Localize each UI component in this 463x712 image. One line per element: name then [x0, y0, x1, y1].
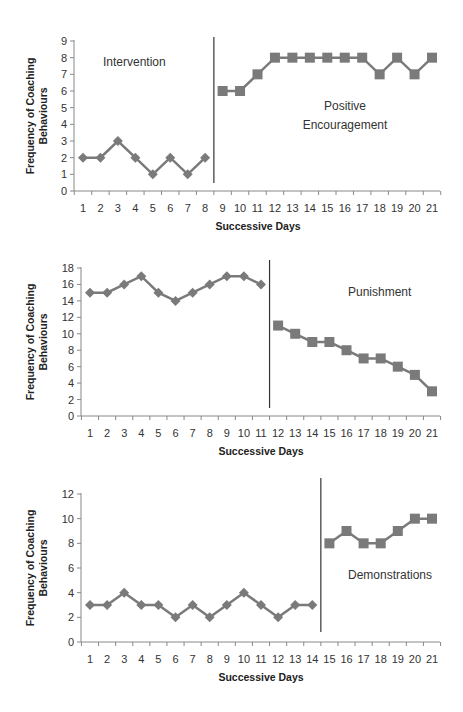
diamond-marker: [205, 279, 215, 289]
chart-3-phase-label-intervention: Demonstrations: [348, 568, 432, 582]
x-tick-label: 17: [356, 202, 368, 214]
diamond-marker: [102, 288, 112, 298]
x-tick-label: 3: [121, 427, 127, 439]
x-tick-label: 11: [252, 202, 263, 214]
square-marker: [340, 53, 350, 63]
x-tick-label: 4: [138, 427, 144, 439]
x-tick-label: 13: [289, 653, 301, 665]
x-tick-label: 20: [408, 202, 420, 214]
y-tick-label: 4: [68, 377, 74, 389]
x-tick-label: 14: [306, 653, 318, 665]
square-marker: [305, 53, 315, 63]
svg-text:Behaviours: Behaviours: [37, 313, 49, 370]
y-tick-label: 18: [62, 262, 74, 274]
x-tick-label: 7: [190, 427, 196, 439]
x-tick-label: 19: [391, 202, 403, 214]
x-tick-label: 16: [339, 202, 351, 214]
chart-1-phase-label-intervention-line2: Encouragement: [303, 118, 388, 132]
x-tick-label: 18: [375, 653, 387, 665]
chart-1-series: [78, 53, 437, 180]
x-tick-label: 4: [138, 653, 144, 665]
y-tick-label: 6: [68, 361, 74, 373]
x-tick-label: 19: [392, 427, 404, 439]
chart-3: 0246810121234567891011121314151617181920…: [24, 478, 441, 683]
x-tick-label: 11: [255, 653, 266, 665]
square-marker: [253, 69, 263, 79]
x-tick-label: 12: [272, 427, 284, 439]
x-tick-label: 1: [87, 427, 93, 439]
y-tick-label: 12: [62, 311, 74, 323]
diamond-marker: [85, 600, 95, 610]
square-marker: [273, 321, 283, 331]
square-marker: [324, 337, 334, 347]
y-tick-label: 12: [62, 488, 74, 500]
x-tick-label: 20: [409, 653, 421, 665]
square-marker: [342, 345, 352, 355]
x-tick-label: 17: [357, 427, 369, 439]
square-marker: [410, 69, 420, 79]
y-tick-label: 2: [68, 394, 74, 406]
x-tick-label: 14: [304, 202, 316, 214]
x-tick-label: 9: [220, 202, 226, 214]
y-tick-label: 0: [68, 410, 74, 422]
y-tick-label: 4: [61, 118, 67, 130]
x-tick-label: 21: [426, 202, 438, 214]
square-marker: [376, 353, 386, 363]
y-tick-label: 4: [68, 587, 74, 599]
y-tick-label: 14: [62, 295, 74, 307]
svg-text:Behaviours: Behaviours: [37, 87, 49, 144]
square-marker: [342, 526, 352, 536]
x-tick-label: 15: [321, 202, 333, 214]
chart-2: 0246810121416181234567891011121314151617…: [24, 260, 441, 457]
diamond-marker: [78, 153, 88, 163]
square-marker: [359, 538, 369, 548]
y-tick-label: 9: [61, 35, 67, 47]
x-tick-label: 19: [392, 653, 404, 665]
y-tick-label: 16: [62, 278, 74, 290]
y-tick-label: 8: [68, 344, 74, 356]
x-tick-label: 21: [426, 653, 438, 665]
x-tick-label: 9: [224, 427, 230, 439]
y-tick-label: 3: [61, 135, 67, 147]
x-tick-label: 2: [97, 202, 103, 214]
square-marker: [324, 538, 334, 548]
chart-1-y-axis-title: Frequency of Coaching Behaviours: [24, 58, 49, 175]
square-marker: [410, 514, 420, 524]
square-marker: [427, 53, 437, 63]
square-marker: [307, 337, 317, 347]
square-marker: [393, 362, 403, 372]
x-tick-label: 8: [207, 653, 213, 665]
y-tick-label: 1: [61, 168, 67, 180]
diamond-marker: [171, 296, 181, 306]
x-tick-label: 17: [357, 653, 369, 665]
square-marker: [322, 53, 332, 63]
x-tick-label: 13: [286, 202, 298, 214]
y-tick-label: 6: [68, 562, 74, 574]
diamond-marker: [307, 600, 317, 610]
x-tick-label: 11: [255, 427, 266, 439]
x-tick-label: 1: [80, 202, 86, 214]
square-marker: [392, 53, 402, 63]
x-tick-label: 5: [150, 202, 156, 214]
diamond-marker: [256, 279, 266, 289]
x-tick-label: 6: [167, 202, 173, 214]
x-tick-label: 12: [272, 653, 284, 665]
square-marker: [287, 53, 297, 63]
x-tick-label: 5: [155, 653, 161, 665]
x-tick-label: 10: [234, 202, 246, 214]
charts-canvas: 0123456789123456789101112131415161718192…: [0, 0, 463, 712]
square-marker: [218, 86, 228, 96]
x-tick-label: 15: [323, 653, 335, 665]
x-tick-label: 3: [121, 653, 127, 665]
y-tick-label: 0: [61, 185, 67, 197]
y-tick-label: 8: [68, 537, 74, 549]
x-tick-label: 5: [155, 427, 161, 439]
x-tick-label: 8: [207, 427, 213, 439]
diamond-marker: [119, 279, 129, 289]
x-tick-label: 6: [172, 653, 178, 665]
square-marker: [410, 370, 420, 380]
y-tick-label: 0: [68, 636, 74, 648]
chart-2-phase-label-intervention: Punishment: [348, 285, 412, 299]
x-tick-label: 16: [340, 653, 352, 665]
svg-text:Frequency of Coaching: Frequency of Coaching: [24, 510, 36, 627]
